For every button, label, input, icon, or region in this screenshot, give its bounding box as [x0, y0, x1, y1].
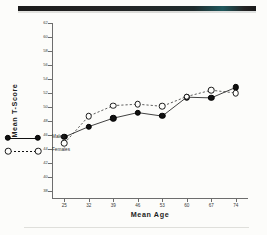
page-bottom-rule [24, 227, 249, 228]
legend-item-females: Females [6, 145, 98, 158]
data-point-females [85, 113, 92, 120]
chart-figure: Mean T-Score 62605856545250484644424038 … [0, 14, 267, 227]
legend-marker-filled-circle-left [5, 135, 11, 141]
x-tick [138, 198, 139, 202]
x-tick-label: 46 [135, 204, 140, 209]
x-tick-label: 60 [184, 204, 189, 209]
y-tick-label: 54 [43, 77, 48, 81]
chart-legend: Males Females [6, 132, 98, 158]
legend-label-males: Males [52, 134, 65, 139]
legend-marker-open-circle-left [5, 148, 12, 155]
legend-label-females: Females [52, 147, 70, 152]
legend-marker-open-circle-right [35, 148, 42, 155]
x-axis-title: Mean Age [52, 210, 248, 219]
y-tick-label: 56 [43, 63, 48, 67]
x-tick [187, 198, 188, 202]
data-point-females [110, 102, 117, 109]
x-axis-line [52, 198, 248, 199]
x-tick [162, 198, 163, 202]
x-tick-label: 32 [86, 204, 91, 209]
x-tick-label: 67 [209, 204, 214, 209]
data-point-females [183, 93, 190, 100]
x-tick-label: 53 [160, 204, 165, 209]
y-tick-label: 38 [43, 189, 48, 193]
legend-marker-filled-circle-right [35, 135, 41, 141]
scanned-page: Mean T-Score 62605856545250484644424038 … [0, 0, 267, 235]
y-tick-label: 52 [43, 91, 48, 95]
x-tick-label: 39 [111, 204, 116, 209]
y-tick-label: 50 [43, 105, 48, 109]
x-tick-label: 25 [62, 204, 67, 209]
data-point-females [232, 90, 239, 97]
x-tick [113, 198, 114, 202]
x-tick [64, 198, 65, 202]
y-tick-label: 40 [43, 175, 48, 179]
plot-area: 62605856545250484644424038 2532394653606… [52, 23, 248, 198]
y-tick-label: 60 [43, 35, 48, 39]
scan-artifact-shadow [18, 11, 256, 13]
y-tick-label: 42 [43, 161, 48, 165]
y-axis-title-label: Mean T-Score [11, 84, 20, 138]
data-point-females [134, 101, 141, 108]
series-lines [52, 23, 248, 198]
data-point-females [159, 103, 166, 110]
x-tick [89, 198, 90, 202]
x-tick [236, 198, 237, 202]
y-tick-label: 48 [43, 119, 48, 123]
y-axis-title: Mean T-Score [8, 23, 22, 198]
x-tick-label: 74 [233, 204, 238, 209]
x-tick [211, 198, 212, 202]
y-tick-label: 62 [43, 21, 48, 25]
data-point-females [208, 87, 215, 94]
legend-item-males: Males [6, 132, 98, 145]
y-tick-label: 58 [43, 49, 48, 53]
